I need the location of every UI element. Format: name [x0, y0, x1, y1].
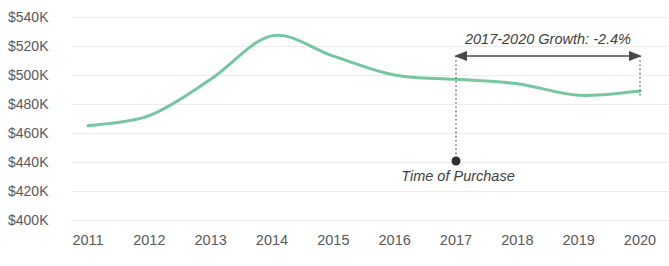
x-axis-tick-label: 2014: [256, 232, 288, 248]
x-axis-tick-label: 2019: [563, 232, 595, 248]
x-axis-tick-label: 2018: [501, 232, 533, 248]
time-of-purchase-dot-marker: [452, 157, 461, 166]
x-axis-tick-label: 2015: [317, 232, 349, 248]
x-axis-tick-label: 2012: [133, 232, 165, 248]
x-axis-tick-label: 2020: [624, 232, 656, 248]
y-axis-tick-labels: $540K$520K$500K$480K$460K$440K$420K$400K: [8, 9, 49, 228]
chart-canvas: $540K$520K$500K$480K$460K$440K$420K$400K…: [0, 0, 669, 266]
growth-span-arrow-left-head: [454, 51, 467, 61]
home-value-series-line: [88, 35, 640, 125]
y-axis-tick-label: $400K: [8, 212, 49, 228]
x-axis-tick-label: 2013: [195, 232, 227, 248]
y-axis-tick-label: $440K: [8, 154, 49, 170]
x-axis-tick-labels: 2011201220132014201520162017201820192020: [72, 232, 656, 248]
growth-span-arrow-right-head: [629, 51, 642, 61]
x-axis-tick-label: 2016: [379, 232, 411, 248]
x-axis-tick-label: 2011: [72, 232, 103, 248]
x-axis-tick-label: 2017: [440, 232, 472, 248]
y-axis-tick-label: $460K: [8, 125, 49, 141]
y-axis-tick-label: $540K: [8, 9, 49, 25]
y-axis-tick-label: $420K: [8, 183, 49, 199]
home-value-line-chart: $540K$520K$500K$480K$460K$440K$420K$400K…: [0, 0, 669, 266]
y-axis-tick-label: $480K: [8, 96, 49, 112]
growth-annotation-label: 2017-2020 Growth: -2.4%: [464, 31, 631, 47]
y-axis-tick-label: $520K: [8, 38, 49, 54]
y-axis-tick-label: $500K: [8, 67, 49, 83]
time-of-purchase-label: Time of Purchase: [401, 168, 515, 184]
gridlines-group: [72, 18, 669, 221]
